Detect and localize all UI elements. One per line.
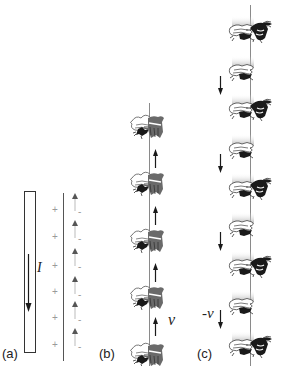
panel-c [218,5,272,366]
positive-charge: + [52,287,58,297]
panel-label-c: (c) [197,347,212,360]
arrow-up-icon [153,317,158,336]
current-arrow-icon [26,254,32,312]
velocity-label-c: -v [202,306,214,321]
negative-charge: - [78,290,81,300]
current-label: I [37,261,42,275]
panel-a [25,192,79,362]
down-arrows [218,76,223,329]
panel-label-a: (a) [2,347,18,360]
arrow-up-icon [153,149,158,168]
panel-b [131,103,165,366]
arrow-down-icon [218,232,223,251]
panel-label-b: (b) [99,347,115,360]
positive-charge: + [52,205,58,215]
negative-charge: - [78,207,81,217]
arrow-down-icon [218,310,223,329]
positive-charge: + [52,340,58,350]
molecule-left [229,56,254,81]
molecule-pair [131,172,165,196]
molecule-pair [131,229,165,253]
negative-charge: - [78,262,81,272]
positive-charge: + [52,261,58,271]
molecule-pair [131,115,165,139]
velocity-label-b: v [168,312,175,328]
arrow-down-icon [218,76,223,95]
arrow-up-icon [153,263,158,282]
wire-rectangle [25,192,36,353]
molecule-pair [131,343,165,366]
molecule-pair [131,286,165,310]
positive-charge: + [52,232,58,242]
positive-charge: + [52,313,58,323]
negative-charge: - [78,234,81,244]
figure-canvas: I (a) + + + + + + - - - - - - v (b) -v (… [0,0,281,366]
negative-charge: - [78,315,81,325]
molecule-left [229,212,254,237]
arrow-down-icon [218,154,223,173]
diagram-svg [0,0,281,366]
arrow-up-icon [153,206,158,225]
molecule-left [229,290,254,315]
negative-charge: - [78,342,81,352]
molecule-left [229,134,254,159]
